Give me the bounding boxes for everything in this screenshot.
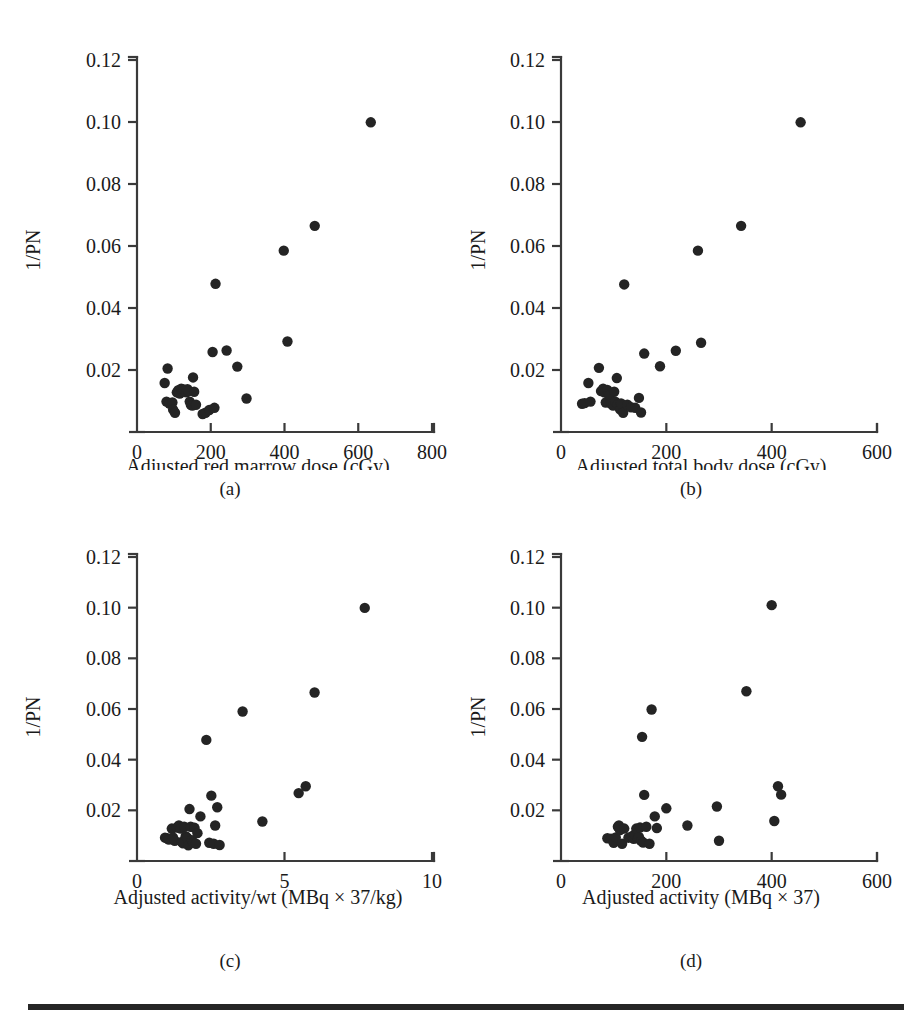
data-point — [192, 828, 202, 838]
data-point — [214, 840, 224, 850]
data-point — [736, 221, 746, 231]
y-tick-label-b-1: 0.10 — [510, 111, 545, 133]
data-point — [714, 836, 724, 846]
data-point — [162, 363, 172, 373]
y-tick-label-a-4: 0.04 — [86, 297, 121, 319]
figure-container: 0200400600800 0.120.100.080.060.040.02 1… — [0, 0, 921, 1030]
y-tick-label-c-1: 0.10 — [86, 597, 121, 619]
data-point — [206, 790, 216, 800]
data-point — [241, 393, 251, 403]
axes-d — [553, 554, 877, 861]
x-tick-label-c-2: 10 — [422, 870, 442, 892]
data-points-b — [577, 117, 806, 418]
data-point — [237, 706, 247, 716]
scatter-plot-d: 0200400600 0.120.100.080.060.040.02 1/PN… — [461, 512, 921, 952]
data-point — [360, 603, 370, 613]
axes-a — [129, 57, 434, 432]
panel-caption-b: (b) — [461, 478, 921, 500]
data-point — [619, 279, 629, 289]
data-point — [221, 345, 231, 355]
data-point — [655, 361, 665, 371]
data-point — [583, 378, 593, 388]
y-tick-label-d-0: 0.12 — [510, 546, 545, 568]
data-point — [191, 400, 201, 410]
data-point — [585, 396, 595, 406]
footer-rule — [28, 1004, 904, 1010]
data-point — [301, 781, 311, 791]
y-axis-label-a: 1/PN — [22, 229, 44, 270]
y-tick-label-c-2: 0.08 — [86, 647, 121, 669]
y-axis-label-b: 1/PN — [467, 229, 489, 270]
panel-caption-a: (a) — [0, 478, 460, 500]
y-tick-label-b-4: 0.04 — [510, 297, 545, 319]
x-tick-label-b-3: 600 — [862, 441, 892, 463]
data-point — [652, 823, 662, 833]
y-tick-label-b-0: 0.12 — [510, 49, 545, 71]
data-point — [795, 117, 805, 127]
x-axis-label-a: Adjusted red marrow dose (cGy) — [126, 455, 389, 470]
data-point — [646, 704, 656, 714]
data-point — [191, 839, 201, 849]
data-point — [682, 820, 692, 830]
panel-caption-d: (d) — [461, 950, 921, 972]
data-point — [189, 387, 199, 397]
y-tick-label-c-3: 0.06 — [86, 698, 121, 720]
y-ticks-a: 0.120.100.080.060.040.02 — [86, 49, 137, 381]
data-point — [170, 408, 180, 418]
data-point — [693, 245, 703, 255]
data-point — [609, 387, 619, 397]
panel-d: 0200400600 0.120.100.080.060.040.02 1/PN… — [461, 512, 921, 982]
data-points-a — [159, 117, 376, 419]
data-point — [195, 811, 205, 821]
data-point — [210, 820, 220, 830]
data-point — [641, 822, 651, 832]
data-point — [776, 789, 786, 799]
data-point — [650, 811, 660, 821]
data-point — [637, 732, 647, 742]
axes-c — [129, 554, 434, 861]
data-points-c — [160, 603, 370, 851]
y-tick-label-c-0: 0.12 — [86, 546, 121, 568]
data-point — [634, 393, 644, 403]
data-points-d — [602, 600, 786, 849]
y-tick-label-b-5: 0.02 — [510, 359, 545, 381]
panel-a: 0200400600800 0.120.100.080.060.040.02 1… — [0, 0, 460, 510]
y-tick-label-d-3: 0.06 — [510, 698, 545, 720]
data-point — [769, 816, 779, 826]
y-tick-label-a-2: 0.08 — [86, 173, 121, 195]
data-point — [279, 245, 289, 255]
x-tick-label-a-4: 800 — [417, 441, 447, 463]
data-point — [766, 600, 776, 610]
data-point — [159, 378, 169, 388]
y-tick-label-a-0: 0.12 — [86, 49, 121, 71]
y-tick-label-c-4: 0.04 — [86, 749, 121, 771]
data-point — [741, 686, 751, 696]
data-point — [209, 403, 219, 413]
x-axis-label-d: Adjusted activity (MBq × 37) — [582, 886, 820, 909]
x-axis-label-c: Adjusted activity/wt (MBq × 37/kg) — [113, 886, 402, 909]
y-tick-label-d-5: 0.02 — [510, 799, 545, 821]
data-point — [366, 117, 376, 127]
data-point — [671, 346, 681, 356]
y-ticks-d: 0.120.100.080.060.040.02 — [510, 546, 561, 821]
scatter-plot-c: 0510 0.120.100.080.060.040.02 1/PN Adjus… — [0, 512, 460, 952]
data-point — [257, 816, 267, 826]
scatter-plot-b: 0200400600 0.120.100.080.060.040.02 1/PN… — [461, 0, 921, 470]
data-point — [696, 338, 706, 348]
data-point — [309, 687, 319, 697]
data-point — [232, 361, 242, 371]
panel-b: 0200400600 0.120.100.080.060.040.02 1/PN… — [461, 0, 921, 510]
data-point — [594, 363, 604, 373]
y-tick-label-a-5: 0.02 — [86, 359, 121, 381]
data-point — [612, 373, 622, 383]
y-tick-label-d-1: 0.10 — [510, 597, 545, 619]
data-point — [282, 336, 292, 346]
data-point — [639, 348, 649, 358]
data-point — [201, 735, 211, 745]
axes-b — [553, 57, 877, 432]
y-tick-label-d-4: 0.04 — [510, 749, 545, 771]
y-axis-label-c: 1/PN — [22, 696, 44, 737]
y-ticks-c: 0.120.100.080.060.040.02 — [86, 546, 137, 821]
data-point — [636, 407, 646, 417]
data-point — [639, 790, 649, 800]
